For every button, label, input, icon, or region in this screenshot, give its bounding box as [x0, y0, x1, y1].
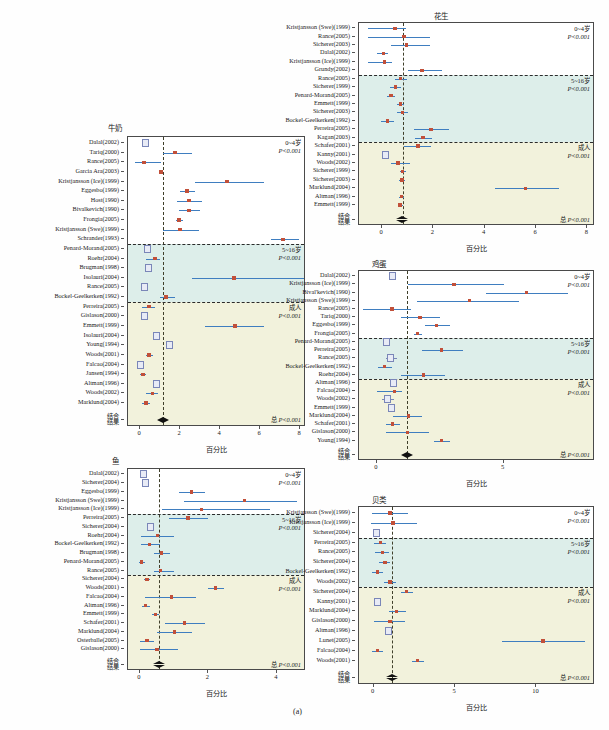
x-tick-label: 0	[371, 687, 374, 694]
group-annotation-1-shellfish: 5~16岁P<0.001	[567, 540, 590, 557]
group-separator-2-shellfish	[359, 587, 593, 588]
total-pvalue-shellfish: 总 P<0.001	[560, 673, 590, 682]
panel-shellfish: 贝类0~4岁P<0.0015~16岁P<0.001成人P<0.001总 P<0.…	[0, 0, 609, 730]
point-estimate	[388, 580, 391, 583]
point-estimate	[395, 610, 398, 613]
plot-area-shellfish: 0~4岁P<0.0015~16岁P<0.001成人P<0.001总 P<0.00…	[358, 506, 594, 684]
group-separator-1-shellfish	[359, 538, 593, 539]
y-tick	[352, 551, 355, 552]
point-estimate	[383, 561, 386, 564]
y-tick	[352, 660, 355, 661]
effect-box	[373, 529, 380, 537]
study-label: Woods(2002)	[316, 578, 350, 584]
study-label: Perreira(2005)	[314, 538, 350, 544]
study-label: Marklund(2004)	[309, 607, 350, 613]
study-label: Sicherer(2004)	[313, 558, 350, 564]
band-adults-shellfish	[359, 587, 593, 684]
point-estimate	[391, 521, 394, 524]
y-tick	[352, 591, 355, 592]
group-annotation-2-shellfish: 成人P<0.001	[567, 589, 590, 606]
study-label: Kristjansson (Swe)(1999)	[286, 509, 350, 515]
figure-caption: (a)	[293, 707, 302, 716]
y-tick	[352, 532, 355, 533]
y-tick	[352, 610, 355, 611]
effect-box	[374, 598, 381, 606]
study-label: Gislason(2000)	[312, 617, 350, 623]
y-tick	[352, 561, 355, 562]
group-annotation-0-shellfish: 0~4岁P<0.001	[567, 509, 590, 526]
pooled-diamond	[386, 674, 398, 677]
y-tick	[352, 620, 355, 621]
point-estimate	[379, 541, 382, 544]
study-label: Kristjansson (Ice)(1999)	[289, 519, 350, 525]
y-tick	[352, 677, 355, 678]
study-label: Falcao(2004)	[317, 647, 350, 653]
study-label: Sicherer(2004)	[313, 588, 350, 594]
y-tick	[352, 640, 355, 641]
study-label: Altman(1996)	[315, 627, 350, 633]
point-estimate	[376, 649, 379, 652]
study-label: Sicherer(2004)	[313, 529, 350, 535]
study-label: Lunet(2005)	[319, 637, 350, 643]
point-estimate	[376, 570, 379, 573]
point-estimate	[416, 659, 419, 662]
y-tick	[352, 650, 355, 651]
point-estimate	[541, 639, 544, 642]
y-tick	[352, 601, 355, 602]
point-estimate	[381, 551, 384, 554]
y-tick	[352, 512, 355, 513]
forest-plot-figure: 牛奶0~4岁P<0.0015~16岁P<0.001成人P<0.001总 P<0.…	[0, 0, 609, 730]
x-tick-label: 10	[532, 687, 539, 694]
band-teens-shellfish	[359, 538, 593, 587]
point-estimate	[388, 511, 391, 514]
pooled-result-label: 结合结果	[338, 670, 350, 683]
x-axis-title-shellfish: 百分比	[466, 702, 487, 712]
point-estimate	[388, 620, 391, 623]
null-reference-line-shellfish	[392, 507, 393, 683]
plot-frame-shellfish: 0~4岁P<0.0015~16岁P<0.001成人P<0.001总 P<0.00…	[358, 506, 594, 684]
y-tick	[352, 542, 355, 543]
study-label: Rance(2005)	[318, 548, 350, 554]
y-tick	[352, 581, 355, 582]
y-axis-labels-shellfish: Kristjansson (Swe)(1999)Kristjansson (Ic…	[0, 506, 355, 684]
y-tick	[352, 571, 355, 572]
x-tick-label: 5	[452, 687, 455, 694]
point-estimate	[405, 590, 408, 593]
effect-box	[385, 627, 392, 635]
y-tick	[352, 522, 355, 523]
study-label: Bockel-Geelkerken(1992)	[285, 568, 350, 574]
study-label: Woods(2001)	[316, 657, 350, 663]
y-tick	[352, 630, 355, 631]
panel-title-shellfish: 贝类	[372, 494, 386, 505]
study-label: Kanny(2001)	[317, 597, 350, 603]
